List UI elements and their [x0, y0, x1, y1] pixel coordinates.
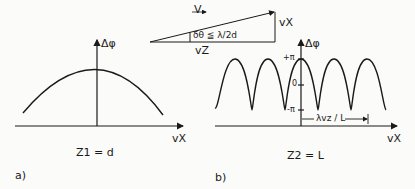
panel-b-y-label: Δφ [305, 38, 320, 49]
period-label: λvz / L [316, 114, 345, 123]
vector-vx-label: vX [279, 17, 293, 28]
tick-label-plus-pi: +π [283, 54, 295, 62]
panel-b-x-label: vX [387, 133, 401, 144]
tick-label-zero: 0 [292, 80, 297, 88]
panel-b-condition: Z2 = L [287, 150, 324, 161]
panel-a-x-label: vX [172, 133, 186, 144]
panel-b-plot [215, 40, 397, 126]
panel-a-y-label: Δφ [101, 38, 116, 49]
angle-condition-label: δθ ≦ λ/2d [193, 31, 237, 40]
panel-a-plot [15, 40, 183, 126]
panel-b-tag: b) [215, 172, 226, 183]
vector-v-label: V [194, 4, 202, 15]
panel-a-condition: Z1 = d [76, 147, 114, 158]
diagram-canvas [0, 0, 415, 189]
tick-label-minus-pi: -π [287, 106, 295, 114]
panel-a-tag: a) [15, 170, 26, 181]
panel-a-curve [23, 69, 163, 115]
vector-vz-label: vZ [195, 45, 209, 56]
